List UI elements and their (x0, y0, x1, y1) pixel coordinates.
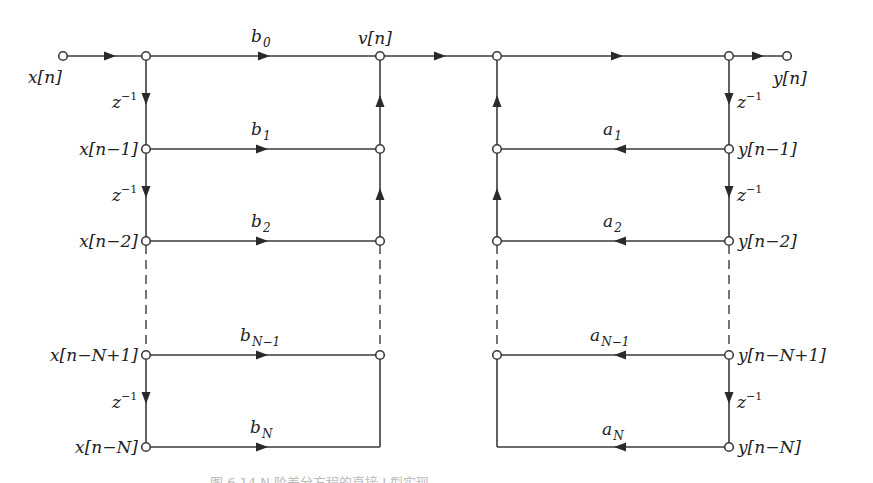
output-node (783, 52, 792, 61)
x-delay-node (142, 237, 151, 246)
arrow-right-icon (434, 52, 446, 61)
x-delay-label: x[n−N+1] (50, 345, 138, 365)
y-delay-node (725, 443, 734, 452)
y-delay-node (725, 351, 734, 360)
ff-sum-node (376, 237, 385, 246)
x-delay-label: x[n−1] (79, 139, 138, 159)
intermediate-label: v[n] (358, 28, 392, 48)
arrow-down-icon (142, 392, 151, 404)
nodes (59, 52, 792, 452)
arrow-right-icon (752, 52, 764, 61)
x-delay-node (142, 443, 151, 452)
fb-sum-node (493, 145, 502, 154)
x-delay-label: x[n−2] (79, 231, 138, 251)
arrow-right-icon (256, 443, 268, 452)
arrow-right-icon (258, 52, 270, 61)
delay-label: z−1 (736, 90, 762, 112)
arrow-right-icon (256, 237, 268, 246)
x-delay-node (142, 351, 151, 360)
coef-aN: aN (602, 419, 624, 443)
x-node (142, 52, 151, 61)
delay-label: z−1 (736, 183, 762, 205)
input-label: x[n] (28, 67, 62, 87)
signal-flow-diagram: x[n] v[n] y[n] b0 b1 b2 bN−1 bN a1 a2 aN… (0, 0, 873, 483)
arrow-down-icon (725, 93, 734, 105)
delay-label: z−1 (111, 390, 137, 412)
arrow-right-icon (104, 52, 116, 61)
fb-sum-node (493, 351, 502, 360)
arrow-down-icon (142, 186, 151, 198)
input-node (59, 52, 68, 61)
y-delay-label: y[n−N] (737, 437, 801, 457)
feedforward-branches (146, 149, 380, 447)
fb-sum-node (493, 237, 502, 246)
arrow-left-icon (614, 443, 626, 452)
x-delay-node (142, 145, 151, 154)
delay-label: z−1 (111, 183, 137, 205)
delay-label: z−1 (736, 390, 762, 412)
feedback-sum-node (493, 52, 502, 61)
arrow-down-icon (142, 93, 151, 105)
arrow-right-icon (256, 351, 268, 360)
arrow-left-icon (614, 351, 626, 360)
delay-label: z−1 (111, 90, 137, 112)
arrow-up-icon (376, 95, 385, 107)
coef-bN-1: bN−1 (240, 325, 280, 349)
y-delay-label: y[n−N+1] (737, 345, 826, 365)
arrow-right-icon (256, 145, 268, 154)
coef-b0: b0 (251, 26, 271, 50)
arrow-down-icon (725, 392, 734, 404)
figure-caption: 图 6.14 N 阶差分方程的直接 I 型实现 (210, 472, 670, 483)
x-delay-label: x[n−N] (75, 437, 138, 457)
coef-a1: a1 (603, 119, 622, 143)
coef-b2: b2 (251, 211, 271, 235)
feedback-branches (497, 149, 729, 447)
y-node (725, 52, 734, 61)
y-delay-node (725, 237, 734, 246)
arrow-up-icon (376, 188, 385, 200)
arrow-left-icon (614, 145, 626, 154)
ff-sum-node (376, 145, 385, 154)
y-delay-label: y[n−2] (737, 231, 797, 251)
coef-bN: bN (250, 417, 273, 441)
y-delay-node (725, 145, 734, 154)
arrow-up-icon (493, 95, 502, 107)
coef-a2: a2 (603, 211, 622, 235)
y-delay-label: y[n−1] (737, 139, 797, 159)
arrow-down-icon (725, 186, 734, 198)
coef-b1: b1 (251, 119, 271, 143)
arrow-right-icon (611, 52, 623, 61)
arrowheads (104, 52, 764, 452)
v-node (376, 52, 385, 61)
arrow-left-icon (614, 237, 626, 246)
arrow-up-icon (493, 188, 502, 200)
coef-aN-1: aN−1 (590, 325, 629, 349)
ff-sum-node (376, 351, 385, 360)
output-label: y[n] (772, 68, 807, 88)
